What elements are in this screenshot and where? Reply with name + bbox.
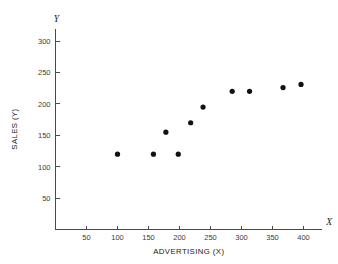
y-tick-label: 250: [38, 68, 51, 77]
x-tick-label: 150: [142, 233, 155, 242]
x-tick-label: 50: [82, 233, 90, 242]
data-point: [298, 82, 303, 87]
data-point: [163, 130, 168, 135]
data-point: [200, 104, 205, 109]
y-tick-label: 200: [38, 100, 51, 109]
y-axis-title: SALES (Y): [10, 108, 19, 149]
y-tick-label: 50: [42, 194, 50, 203]
y-tick-label: 100: [38, 163, 51, 172]
chart-canvas: 50100150200250300 5010015020025030035040…: [0, 0, 338, 264]
x-tick-label: 400: [297, 233, 310, 242]
x-axis-symbol-label: X: [325, 217, 333, 227]
y-axis-symbol-label: Y: [54, 14, 61, 24]
x-axis-ticks: 50100150200250300350400: [82, 226, 309, 243]
x-tick-label: 300: [235, 233, 248, 242]
data-points-group: [115, 82, 304, 157]
x-tick-label: 200: [173, 233, 186, 242]
data-point: [230, 89, 235, 94]
data-point: [115, 152, 120, 157]
x-tick-label: 250: [204, 233, 217, 242]
axes-group: [56, 29, 323, 230]
x-axis-title: ADVERTISING (X): [153, 247, 224, 256]
data-point: [280, 85, 285, 90]
y-tick-label: 300: [38, 37, 51, 46]
data-point: [151, 152, 156, 157]
y-axis-ticks: 50100150200250300: [38, 37, 60, 203]
scatter-plot-figure: 50100150200250300 5010015020025030035040…: [0, 0, 338, 264]
data-point: [247, 89, 252, 94]
x-tick-label: 100: [111, 233, 124, 242]
data-point: [176, 152, 181, 157]
y-tick-label: 150: [38, 131, 51, 140]
data-point: [188, 120, 193, 125]
x-tick-label: 350: [266, 233, 279, 242]
